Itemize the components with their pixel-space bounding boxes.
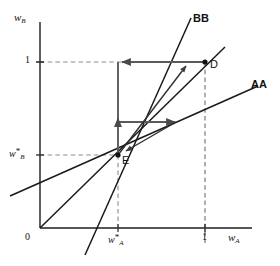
diagram-canvas [0, 0, 280, 266]
ray-forty-five [40, 47, 225, 228]
curve-label-aa: AA [251, 78, 267, 90]
x-axis-label: wA [228, 231, 240, 245]
curve-label-bb: BB [193, 12, 209, 24]
y-tick-star-label: w*B [9, 146, 24, 161]
point-label-e: E [122, 154, 129, 166]
x-tick-star-label: w*A [108, 232, 123, 247]
point-d-marker [202, 59, 207, 64]
guide-lines [40, 62, 205, 243]
curve-bb [85, 18, 191, 255]
point-e-marker [115, 152, 120, 157]
origin-label: 0 [25, 231, 30, 242]
y-tick-one-label: 1 [25, 54, 30, 65]
figure-container: wB wA 1 w*B 0 w*A 1 BB AA E D [0, 0, 280, 266]
x-tick-one-label: 1 [202, 231, 207, 242]
path-diagonal-up [118, 66, 186, 155]
y-axis-label: wB [14, 11, 26, 25]
curve-aa [10, 86, 258, 196]
point-label-d: D [210, 58, 218, 70]
